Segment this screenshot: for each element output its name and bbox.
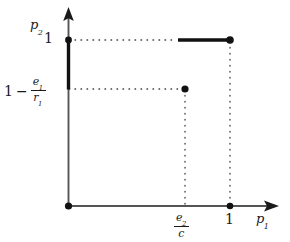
x-tick-fraction-numerator: e2 xyxy=(174,212,189,228)
x-tick-fraction: e2 c xyxy=(174,212,189,240)
corner-equilibrium-point xyxy=(226,36,234,44)
y-tick-denominator-subscript: 1 xyxy=(38,100,42,108)
x-axis-label: p1 xyxy=(256,212,269,229)
y-axis-one-point xyxy=(65,37,72,44)
interior-equilibrium-point xyxy=(181,85,188,92)
x-axis-one-point xyxy=(227,203,234,210)
y-tick-label-one-minus-e1-over-r1: 1 − e1 r1 xyxy=(4,76,46,107)
x-axis-label-subscript: 1 xyxy=(264,222,269,231)
marker-points xyxy=(65,36,234,209)
y-tick-fraction: e1 r1 xyxy=(31,76,46,107)
y-tick-fraction-numerator: e1 xyxy=(31,76,46,92)
y-tick-minus-operator: − xyxy=(16,84,28,98)
x-tick-label-e2-over-c: e2 c xyxy=(174,212,189,240)
y-tick-fraction-denominator: r1 xyxy=(31,91,46,106)
y-axis-label-subscript: 2 xyxy=(38,28,43,37)
y-tick-label-one: 1 xyxy=(44,31,53,45)
y-axis-label: p2 xyxy=(30,18,43,35)
axis-lines xyxy=(68,16,268,206)
y-tick-lead: 1 xyxy=(4,84,13,98)
equilibrium-diagram: p2 p1 1 1 − e1 r1 e2 c 1 xyxy=(0,0,290,242)
x-tick-label-one: 1 xyxy=(225,212,234,226)
equilibrium-segments xyxy=(69,40,231,90)
guide-lines xyxy=(69,40,230,204)
y-tick-numerator-subscript: 1 xyxy=(39,84,43,92)
x-tick-numerator-subscript: 2 xyxy=(182,220,186,228)
origin-point xyxy=(65,202,72,209)
x-tick-fraction-denominator: c xyxy=(174,227,189,239)
